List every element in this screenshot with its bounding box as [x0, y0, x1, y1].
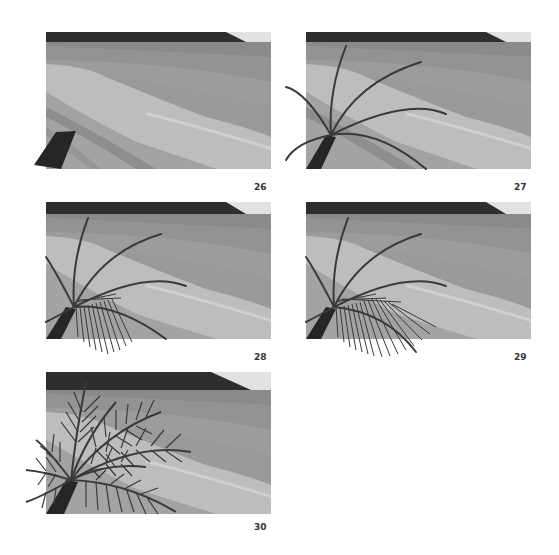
panel-29: 29 — [306, 202, 531, 339]
panel-28: 28 — [46, 202, 271, 339]
panel-30: 30 — [46, 372, 271, 514]
beach-scene-29 — [306, 202, 531, 339]
beach-scene-26 — [46, 32, 271, 169]
panel-26: 26 — [46, 32, 271, 169]
step-number: 28 — [254, 352, 267, 362]
panel-27: 27 — [306, 32, 531, 169]
step-number: 29 — [514, 352, 527, 362]
beach-scene-30 — [46, 372, 271, 514]
beach-scene-28 — [46, 202, 271, 339]
step-number: 26 — [254, 182, 267, 192]
beach-scene-27 — [306, 32, 531, 169]
step-number: 30 — [254, 522, 267, 532]
step-number: 27 — [514, 182, 527, 192]
